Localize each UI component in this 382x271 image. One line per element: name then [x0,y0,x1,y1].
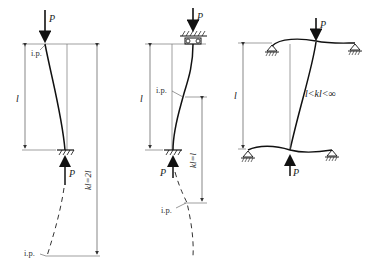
reaction-label: P [68,168,75,179]
dashed-extension [47,188,64,256]
pin-support-icon [348,44,362,55]
load-label: P [319,19,326,30]
top-beam [272,39,355,46]
pin-support-icon [265,45,279,56]
roller-support-icon [180,31,207,44]
buckling-figure: P i.p. l P i.p. kl=2l [0,0,382,271]
length-label: l [140,93,143,104]
pin-support-icon [325,150,339,161]
reaction-label: P [159,167,166,178]
inflection-leader [172,91,183,97]
fixed-support-icon [57,150,74,155]
diagram-right: P l P l<kl<∞ [234,18,362,178]
effective-length-label: kl=l [188,152,198,168]
diagram-left: P i.p. l P i.p. kl=2l [16,10,100,258]
length-label: l [234,90,237,101]
dashed-extension [175,172,193,256]
pin-support-icon [241,151,255,162]
inflection-label: i.p. [156,85,167,95]
inflection-label-bottom: i.p. [161,205,172,215]
fixed-support-icon [164,150,182,155]
length-label: l [16,93,19,104]
deflected-column [45,44,65,150]
inflection-leader-bottom [176,203,186,208]
load-label: P [48,13,55,24]
inflection-leader-bottom [40,254,46,256]
effective-length-label: kl=2l [83,170,93,190]
diagram-middle: P l i.p. P i.p. kl=l [140,8,207,256]
inflection-label-bottom: i.p. [24,248,35,258]
reaction-label: P [292,167,299,178]
load-label: P [196,11,203,22]
effective-length-label: l<kl<∞ [305,88,336,99]
